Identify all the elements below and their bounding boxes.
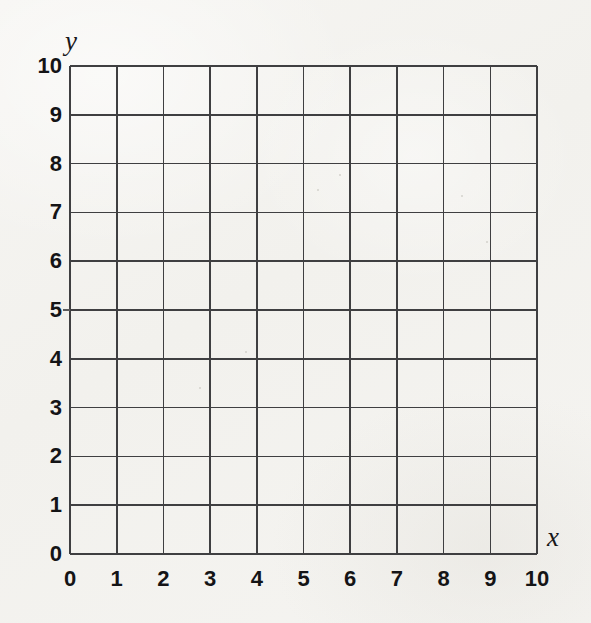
y-tick-label-4: 4 (50, 348, 62, 370)
x-tick-label-3: 3 (204, 568, 216, 590)
x-axis-label: x (547, 524, 559, 551)
x-tick-label-9: 9 (484, 568, 496, 590)
y-tick-label-10: 10 (38, 55, 62, 77)
x-tick-label-1: 1 (111, 568, 123, 590)
y-tick-label-2: 2 (50, 445, 62, 467)
x-tick-label-10: 10 (525, 568, 549, 590)
x-tick-label-2: 2 (157, 568, 169, 590)
y-tick-label-3: 3 (50, 397, 62, 419)
x-tick-label-4: 4 (251, 568, 263, 590)
y-tick-label-0: 0 (50, 543, 62, 565)
y-tick-label-8: 8 (50, 153, 62, 175)
x-tick-label-7: 7 (391, 568, 403, 590)
y-tick-label-7: 7 (50, 201, 62, 223)
y-tick-label-5: 5 (50, 299, 62, 321)
x-tick-label-6: 6 (344, 568, 356, 590)
x-tick-label-0: 0 (64, 568, 76, 590)
x-tick-label-8: 8 (437, 568, 449, 590)
x-tick-label-5: 5 (297, 568, 309, 590)
coordinate-grid (0, 0, 591, 623)
y-axis-label: y (65, 28, 77, 55)
scan-speckles (199, 174, 488, 389)
y-tick-label-1: 1 (50, 494, 62, 516)
y-tick-label-9: 9 (50, 104, 62, 126)
y-tick-label-6: 6 (50, 250, 62, 272)
